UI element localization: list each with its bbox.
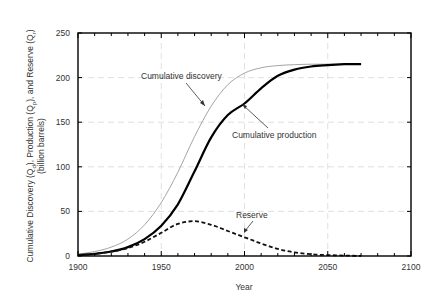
y-tick-label: 150 — [56, 117, 70, 127]
y-tick-label: 200 — [56, 73, 70, 83]
y-tick-label: 0 — [65, 251, 70, 261]
y-tick-label: 250 — [56, 28, 70, 38]
gridlines — [78, 33, 411, 256]
chart: 05010015020025019001950200020502100 Cumu… — [0, 0, 441, 307]
series-cumulative-production — [78, 64, 361, 255]
x-tick-label: 2050 — [318, 262, 337, 272]
x-axis-title: Year — [235, 282, 252, 292]
y-tick-label: 100 — [56, 162, 70, 172]
y-tick-label: 50 — [61, 206, 71, 216]
series-cumulative-discovery — [78, 64, 361, 254]
annotation-cumulative-discovery: Cumulative discovery — [141, 71, 223, 81]
x-tick-label: 1950 — [152, 262, 171, 272]
annotation-reserve: Reserve — [236, 210, 268, 220]
x-tick-label: 1900 — [69, 262, 88, 272]
y-axis-title-line2: (billion barrels) — [36, 118, 46, 174]
y-axis-title: Cumulative Discovery (Qd), Production (Q… — [25, 29, 46, 262]
arrow-head-reserve — [244, 228, 248, 233]
series-reserve — [78, 221, 361, 256]
x-tick-label: 2100 — [402, 262, 421, 272]
series-group — [78, 64, 361, 256]
arrow-production — [243, 105, 268, 128]
annotation-cumulative-production: Cumulative production — [232, 130, 317, 140]
x-tick-label: 2000 — [235, 262, 254, 272]
